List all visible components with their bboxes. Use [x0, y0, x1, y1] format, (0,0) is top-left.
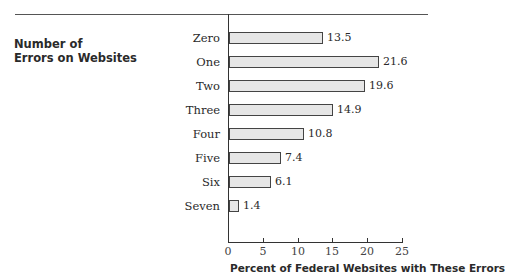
category-label: Six [140, 175, 220, 189]
bar-value-label: 19.6 [369, 79, 394, 92]
bar-value-label: 6.1 [275, 175, 293, 188]
category-label: Zero [140, 31, 220, 45]
category-label: Five [140, 151, 220, 165]
x-tick-mark [228, 238, 229, 242]
x-tick-mark [263, 238, 264, 242]
x-tick-label: 20 [357, 245, 377, 258]
bar [229, 80, 365, 92]
category-label: Three [140, 103, 220, 117]
bar [229, 200, 239, 212]
x-tick-label: 25 [392, 245, 412, 258]
x-axis-line [228, 242, 403, 243]
category-label: Four [140, 127, 220, 141]
bar [229, 56, 379, 68]
y-axis-title: Number of Errors on Websites [14, 37, 137, 65]
x-tick-label: 10 [288, 245, 308, 258]
bar-value-label: 13.5 [327, 31, 352, 44]
x-tick-label: 15 [322, 245, 342, 258]
x-tick-mark [402, 238, 403, 242]
top-rule [15, 14, 428, 15]
bar [229, 152, 281, 164]
x-axis-title: Percent of Federal Websites with These E… [230, 262, 505, 274]
y-axis-title-line-2: Errors on Websites [14, 51, 137, 65]
bar [229, 32, 323, 44]
category-label: Seven [140, 199, 220, 213]
bar-value-label: 21.6 [383, 55, 408, 68]
y-axis-title-line-1: Number of [14, 37, 137, 51]
x-tick-label: 0 [218, 245, 238, 258]
bar-value-label: 10.8 [308, 127, 333, 140]
category-label: One [140, 55, 220, 69]
x-tick-mark [367, 238, 368, 242]
x-tick-mark [332, 238, 333, 242]
bar [229, 104, 333, 116]
x-tick-label: 5 [253, 245, 273, 258]
bar [229, 128, 304, 140]
x-tick-mark [298, 238, 299, 242]
bar-value-label: 1.4 [243, 199, 261, 212]
bar-value-label: 14.9 [337, 103, 362, 116]
category-label: Two [140, 79, 220, 93]
bar [229, 176, 271, 188]
bar-value-label: 7.4 [285, 151, 303, 164]
